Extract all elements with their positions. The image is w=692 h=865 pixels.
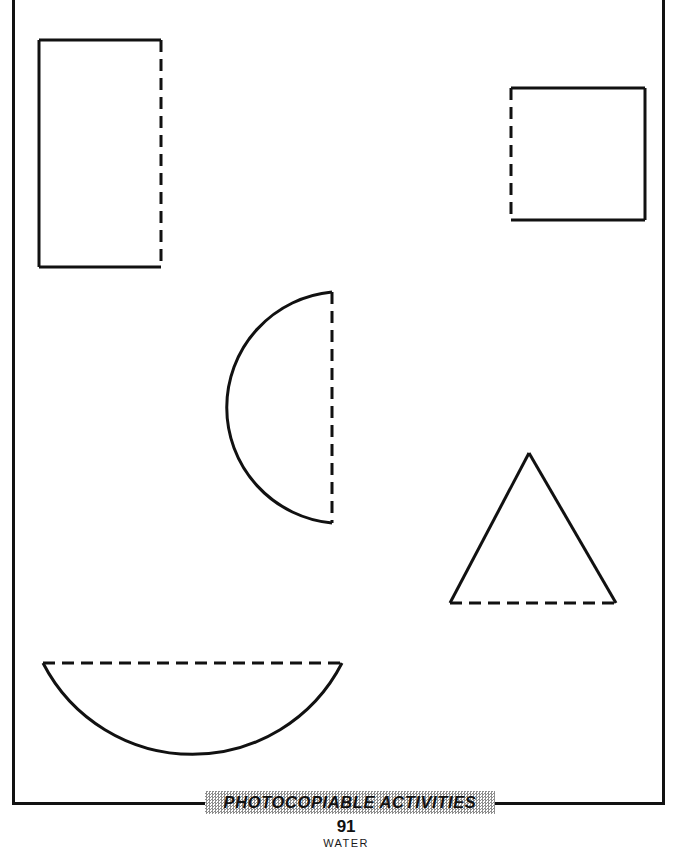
- shape-semicircle-down-facing: [43, 663, 342, 754]
- shape-rectangle-half: [39, 40, 161, 267]
- shape-triangle-half: [450, 453, 616, 603]
- footer-meta: 91 WATER: [0, 818, 692, 850]
- semicircle-arc: [227, 292, 332, 523]
- shapes-canvas: [0, 0, 692, 865]
- photocopiable-banner: PHOTOCOPIABLE ACTIVITIES: [205, 791, 495, 814]
- shape-square-half: [511, 88, 645, 220]
- bottom-semicircle-arc: [43, 663, 342, 754]
- photocopiable-banner-label: PHOTOCOPIABLE ACTIVITIES: [224, 794, 477, 812]
- worksheet-page: PHOTOCOPIABLE ACTIVITIES 91 WATER: [0, 0, 692, 865]
- triangle-right-edge: [529, 453, 616, 603]
- triangle-left-edge: [450, 453, 529, 603]
- page-number: 91: [0, 818, 692, 836]
- shape-semicircle-left-facing: [227, 292, 332, 523]
- section-label: WATER: [0, 837, 692, 850]
